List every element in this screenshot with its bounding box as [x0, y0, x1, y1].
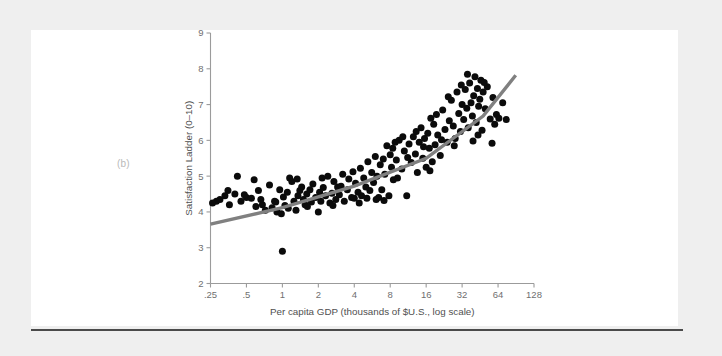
data-point [413, 128, 420, 135]
data-point [403, 192, 410, 199]
page-background: (b) 23456789 .25.51248163264128 Satisfac… [0, 0, 722, 356]
data-point [378, 186, 385, 193]
chart-svg: 23456789 .25.51248163264128 Satisfaction… [0, 0, 722, 356]
x-tick-label: 64 [493, 289, 504, 300]
data-point [255, 187, 262, 194]
x-tick-label: 32 [457, 289, 468, 300]
data-point [451, 142, 458, 149]
y-tick-label: 8 [198, 63, 203, 74]
data-point [450, 123, 457, 130]
data-point [226, 201, 233, 208]
data-point [412, 150, 419, 157]
data-point [468, 99, 475, 106]
data-point [234, 173, 241, 180]
data-point [241, 191, 248, 198]
x-axis: .25.51248163264128 [204, 284, 542, 301]
data-point [441, 126, 448, 133]
data-point [404, 154, 411, 161]
data-point [304, 203, 311, 210]
data-point [414, 169, 421, 176]
data-point [209, 199, 216, 206]
data-point [439, 106, 446, 113]
data-point [294, 176, 301, 183]
data-point [231, 191, 238, 198]
data-point [424, 130, 431, 137]
data-point [372, 153, 379, 160]
data-point [389, 145, 396, 152]
data-point [437, 152, 444, 159]
data-point [349, 168, 356, 175]
y-tick-label: 7 [198, 99, 203, 110]
data-point [248, 195, 255, 202]
data-point [438, 136, 445, 143]
data-point [475, 131, 482, 138]
data-point [491, 121, 498, 128]
data-point [387, 151, 394, 158]
data-point [499, 99, 506, 106]
data-point [373, 196, 380, 203]
data-point [363, 195, 370, 202]
data-point [454, 89, 461, 96]
data-point [298, 183, 305, 190]
data-point [309, 181, 316, 188]
data-point [356, 199, 363, 206]
data-point [380, 155, 387, 162]
data-point [471, 73, 478, 80]
data-point [433, 111, 440, 118]
x-tick-label: 16 [421, 289, 432, 300]
data-point [393, 157, 400, 164]
data-point [464, 71, 471, 78]
data-point [394, 174, 401, 181]
data-point [364, 158, 371, 165]
data-point [341, 198, 348, 205]
y-tick-label: 9 [198, 27, 203, 38]
x-tick-label: .25 [204, 289, 217, 300]
x-tick-label: 4 [352, 289, 357, 300]
data-point [339, 171, 346, 178]
trend-line [211, 75, 516, 224]
x-tick-label: 128 [526, 289, 542, 300]
data-point [279, 248, 286, 255]
data-point [320, 184, 327, 191]
data-point [224, 187, 231, 194]
data-point [470, 92, 477, 99]
y-tick-label: 6 [198, 135, 203, 146]
data-points [209, 71, 510, 255]
y-tick-label: 4 [198, 206, 203, 217]
scatter-chart: 23456789 .25.51248163264128 Satisfaction… [0, 0, 722, 356]
data-point [401, 148, 408, 155]
data-point [276, 186, 283, 193]
x-tick-label: 1 [280, 289, 285, 300]
data-point [399, 133, 406, 140]
data-point [406, 140, 413, 147]
data-point [357, 165, 364, 172]
data-point [458, 81, 465, 88]
data-point [481, 79, 488, 86]
data-point [329, 202, 336, 209]
data-point [426, 167, 433, 174]
data-point [445, 93, 452, 100]
x-axis-title: Per capita GDP (thousands of $U.S., log … [270, 306, 475, 317]
data-point [292, 207, 299, 214]
data-point [420, 143, 427, 150]
data-point [345, 176, 352, 183]
x-tick-label: .5 [242, 289, 250, 300]
data-point [278, 210, 285, 217]
x-tick-label: 2 [316, 289, 321, 300]
data-point [460, 116, 467, 123]
data-point [272, 198, 279, 205]
data-point [257, 196, 264, 203]
data-point [432, 141, 439, 148]
data-point [503, 116, 510, 123]
data-point [495, 115, 502, 122]
data-point [489, 140, 496, 147]
data-point [430, 121, 437, 128]
data-point [487, 115, 494, 122]
data-point [469, 113, 476, 120]
data-point [366, 187, 373, 194]
data-point [426, 145, 433, 152]
bottom-divider-rule [31, 329, 683, 331]
data-point [381, 197, 388, 204]
data-point [252, 203, 259, 210]
y-axis-title: Satisfaction Ladder (0–10) [183, 101, 194, 216]
